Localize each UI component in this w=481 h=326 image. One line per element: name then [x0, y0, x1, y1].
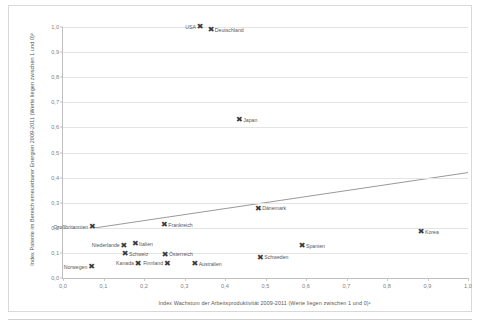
x-cross-icon: ✖ — [418, 228, 424, 235]
x-tick-label: 0,0 — [59, 283, 67, 289]
scatter-point-label: Niederlande — [92, 242, 120, 248]
x-cross-icon: ✖ — [88, 263, 94, 270]
y-tick-label: 0,9 — [51, 49, 59, 55]
scatter-point-label: Norwegen — [64, 264, 88, 270]
y-tick-mark — [60, 127, 63, 128]
x-tick-mark — [63, 278, 64, 281]
x-cross-icon: ✖ — [208, 26, 214, 33]
scatter-point-label: USA — [185, 24, 196, 30]
scatter-point-label: Schweden — [264, 254, 288, 260]
x-tick-mark — [306, 278, 307, 281]
scatter-point-label: Spanien — [306, 243, 325, 249]
y-tick-mark — [60, 202, 63, 203]
x-cross-icon: ✖ — [257, 254, 263, 261]
figure-bottom-rule — [8, 319, 472, 320]
x-tick-mark — [185, 278, 186, 281]
x-cross-icon: ✖ — [197, 23, 203, 30]
y-tick-label: 0,7 — [51, 99, 59, 105]
y-tick-label: 0,4 — [51, 175, 59, 181]
x-cross-icon: ✖ — [191, 260, 197, 267]
scatter-point-label: Finnland — [143, 260, 163, 266]
x-cross-icon: ✖ — [164, 260, 170, 267]
gridline-horizontal — [63, 228, 468, 229]
figure-container: Index Patente im Bereich erneuerbarer En… — [0, 0, 481, 326]
x-axis-title: Index Wachstum der Arbeitsproduktivität … — [62, 300, 467, 306]
y-tick-label: 0,8 — [51, 74, 59, 80]
y-tick-mark — [60, 252, 63, 253]
y-tick-label: 0,3 — [51, 200, 59, 206]
y-tick-mark — [60, 177, 63, 178]
x-cross-icon: ✖ — [162, 251, 168, 258]
scatter-point-label: Italien — [139, 241, 153, 247]
gridline-horizontal — [63, 203, 468, 204]
gridline-horizontal — [63, 102, 468, 103]
x-tick-mark — [347, 278, 348, 281]
x-cross-icon: ✖ — [236, 116, 242, 123]
scatter-point-label: Österreich — [169, 251, 193, 257]
x-tick-mark — [225, 278, 226, 281]
scatter-point-label: Dänemark — [262, 205, 286, 211]
x-tick-label: 0,6 — [302, 283, 310, 289]
plot-area: 0,00,10,20,30,40,50,60,70,80,91,00,00,10… — [62, 27, 468, 279]
scatter-point-label: Deutschland — [215, 27, 244, 33]
y-tick-label: 0,6 — [51, 124, 59, 130]
y-tick-mark — [60, 77, 63, 78]
y-tick-label: 0,0 — [51, 275, 59, 281]
scatter-point-label: Kanada — [116, 260, 134, 266]
y-tick-mark — [60, 52, 63, 53]
x-tick-mark — [428, 278, 429, 281]
x-tick-mark — [104, 278, 105, 281]
scatter-point-label: Japan — [243, 117, 257, 123]
x-cross-icon: ✖ — [121, 242, 127, 249]
y-tick-mark — [60, 27, 63, 28]
scatter-point-label: Großbritannien — [54, 224, 89, 230]
x-tick-label: 0,2 — [140, 283, 148, 289]
x-tick-label: 0,4 — [221, 283, 229, 289]
y-tick-mark — [60, 102, 63, 103]
x-tick-mark — [266, 278, 267, 281]
x-cross-icon: ✖ — [132, 240, 138, 247]
x-tick-label: 0,8 — [383, 283, 391, 289]
x-tick-label: 0,1 — [100, 283, 108, 289]
gridline-horizontal — [63, 153, 468, 154]
x-cross-icon: ✖ — [161, 221, 167, 228]
y-axis-title: Index Patente im Bereich erneuerbarer En… — [29, 16, 36, 284]
x-tick-label: 0,9 — [424, 283, 432, 289]
x-cross-icon: ✖ — [89, 223, 95, 230]
scatter-point-label: Australien — [199, 261, 222, 267]
gridline-horizontal — [63, 178, 468, 179]
x-tick-label: 0,3 — [181, 283, 189, 289]
y-tick-label: 0,5 — [51, 150, 59, 156]
x-tick-label: 0,5 — [262, 283, 270, 289]
y-tick-label: 1,0 — [51, 24, 59, 30]
y-tick-label: 0,1 — [51, 250, 59, 256]
gridline-horizontal — [63, 27, 468, 28]
scatter-point-label: Frankreich — [168, 222, 193, 228]
x-cross-icon: ✖ — [122, 250, 128, 257]
gridline-horizontal — [63, 77, 468, 78]
x-tick-mark — [387, 278, 388, 281]
scatter-point-label: Schweiz — [129, 251, 148, 257]
gridline-horizontal — [63, 52, 468, 53]
chart-frame: Index Patente im Bereich erneuerbarer En… — [8, 5, 472, 312]
x-cross-icon: ✖ — [135, 260, 141, 267]
x-cross-icon: ✖ — [255, 205, 261, 212]
gridline-horizontal — [63, 127, 468, 128]
x-tick-mark — [144, 278, 145, 281]
scatter-point-label: Korea — [425, 229, 439, 235]
x-tick-label: 0,7 — [343, 283, 351, 289]
x-tick-mark — [468, 278, 469, 281]
x-tick-label: 1,0 — [464, 283, 472, 289]
y-tick-mark — [60, 152, 63, 153]
x-cross-icon: ✖ — [299, 242, 305, 249]
